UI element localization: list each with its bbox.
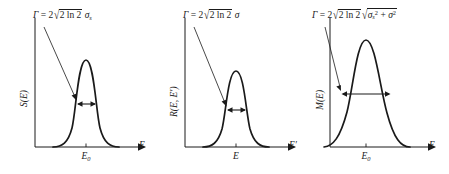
gaussian-convolution-figure: Γ = 2√2 ln 2 σs S(E) E E0	[0, 0, 449, 174]
sigma-subscript: s	[89, 14, 92, 21]
panel-source-plot	[0, 0, 150, 174]
y-axis-label: M(E)	[316, 90, 326, 110]
square-root: √2 ln 2	[203, 8, 232, 21]
fwhm-arrowhead-right	[241, 107, 247, 113]
x-axis-label: E	[429, 141, 435, 151]
plus-sign: +	[380, 10, 385, 20]
fwhm-arrowhead-left	[227, 107, 233, 113]
panel-measured: Γ = 2√2 ln 2√σs2 + σ2 M(E) E E0	[300, 0, 449, 174]
formula-pointer-arrowhead	[72, 94, 77, 101]
square-root-inner: √σs2 + σ2	[361, 8, 397, 21]
x-axis-label: E	[139, 141, 145, 151]
equals-sign: =	[191, 10, 196, 20]
x-tick-label-sub: 0	[367, 155, 370, 162]
sigma-symbol: σ	[235, 10, 240, 20]
radicand-inner: σs2 + σ2	[367, 8, 397, 20]
x-tick-label-base: E	[233, 151, 239, 161]
y-axis-label: R(E, E′)	[170, 86, 180, 117]
gamma-symbol: Γ	[183, 10, 188, 20]
panel-source-formula: Γ = 2√2 ln 2 σs	[33, 8, 92, 21]
fwhm-arrowhead-left	[342, 91, 348, 97]
gaussian-curve	[203, 71, 269, 147]
panel-source: Γ = 2√2 ln 2 σs S(E) E E0	[0, 0, 150, 174]
fwhm-arrowhead-right	[91, 101, 97, 107]
formula-pointer-arrow	[194, 27, 225, 103]
square-root: √2 ln 2	[53, 8, 82, 21]
fwhm-arrowhead-left	[77, 101, 83, 107]
panel-measured-formula: Γ = 2√2 ln 2√σs2 + σ2	[312, 8, 397, 21]
x-tick-label-sub: 0	[87, 155, 90, 162]
formula-pointer-arrow	[325, 27, 340, 87]
panel-resolution-formula: Γ = 2√2 ln 2 σ	[183, 8, 239, 21]
radicand: 2 ln 2	[338, 9, 361, 20]
x-axis-label: E′	[289, 141, 297, 151]
sigma-b-superscript: 2	[393, 9, 396, 16]
equals-sign: =	[320, 10, 325, 20]
radicand: 2 ln 2	[209, 9, 232, 20]
panel-resolution: Γ = 2√2 ln 2 σ R(E, E′) E′ E	[150, 0, 300, 174]
fwhm-arrowhead-right	[385, 91, 391, 97]
x-tick-label: E0	[354, 152, 378, 162]
square-root: √2 ln 2	[332, 8, 361, 21]
equals-sign: =	[41, 10, 46, 20]
panel-measured-plot	[300, 0, 449, 174]
x-tick-label: E0	[74, 152, 98, 162]
radicand: 2 ln 2	[59, 9, 82, 20]
formula-pointer-arrowhead	[222, 100, 227, 107]
sigma-a-superscript: 2	[375, 9, 378, 16]
gamma-symbol: Γ	[312, 10, 317, 20]
gamma-symbol: Γ	[33, 10, 38, 20]
formula-pointer-arrowhead	[336, 85, 341, 91]
x-tick-label: E	[226, 152, 246, 162]
formula-pointer-arrow	[44, 27, 75, 97]
y-axis-label: S(E)	[20, 90, 30, 107]
